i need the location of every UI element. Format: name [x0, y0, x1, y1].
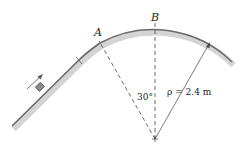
diagram-canvas: A B 30° ρ = 2.4 m [0, 0, 246, 151]
label-radius: ρ = 2.4 m [167, 87, 212, 97]
label-angle: 30° [137, 92, 153, 102]
center-of-curvature [152, 136, 158, 142]
radius-line-a [99, 41, 155, 139]
label-point-a: A [93, 26, 102, 39]
track [12, 30, 234, 129]
label-point-b: B [150, 11, 159, 24]
block [35, 82, 44, 91]
